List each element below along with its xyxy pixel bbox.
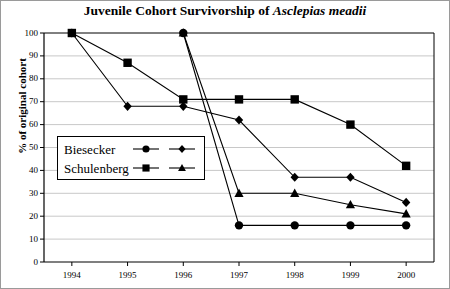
marker-circle	[142, 145, 149, 152]
series-biesecker-diamond	[68, 28, 411, 207]
data-series-layer	[68, 28, 411, 229]
legend-swatches	[132, 160, 200, 176]
marker-diamond	[402, 198, 410, 207]
marker-square	[235, 95, 243, 103]
legend-item: Biesecker	[64, 140, 200, 158]
marker-square	[142, 164, 149, 171]
marker-diamond	[178, 145, 185, 153]
legend: BieseckerSchulenberg	[57, 136, 205, 180]
series-biesecker-circle	[179, 29, 410, 230]
marker-diamond	[346, 173, 354, 182]
marker-square	[291, 95, 299, 103]
marker-triangle	[234, 189, 243, 197]
marker-circle	[402, 221, 410, 229]
marker-circle	[346, 221, 354, 229]
marker-square	[402, 162, 410, 170]
marker-square	[346, 120, 354, 128]
marker-circle	[235, 221, 243, 229]
marker-triangle	[290, 189, 299, 197]
legend-label: Biesecker	[64, 143, 115, 156]
marker-circle	[291, 221, 299, 229]
legend-label: Schulenberg	[64, 162, 129, 175]
marker-square	[68, 29, 76, 37]
legend-item: Schulenberg	[64, 159, 200, 177]
marker-square	[179, 95, 187, 103]
marker-square	[123, 59, 131, 67]
legend-swatches	[132, 141, 200, 157]
